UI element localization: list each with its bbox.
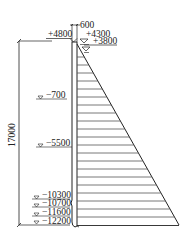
elevation-triangle-icon xyxy=(34,196,39,199)
elevation-marker-1: −700 xyxy=(36,90,67,100)
elevation-label: −5500 xyxy=(46,138,71,148)
retaining-wall xyxy=(71,42,79,227)
elevation-triangle-icon xyxy=(38,96,43,99)
elevation-triangle-icon xyxy=(34,204,39,207)
top-elevation-label: +4800 xyxy=(48,29,73,39)
elevation-triangle-icon xyxy=(34,213,39,216)
elevation-triangle-icon xyxy=(34,221,39,224)
water-level-label-2: +3800 xyxy=(93,36,118,46)
pressure-triangle xyxy=(77,44,179,226)
water-level-triangle-icon xyxy=(80,39,88,43)
overall-height-label: 17000 xyxy=(7,123,17,147)
elevation-marker-2: −5500 xyxy=(36,138,72,148)
elevation-label: −12200 xyxy=(42,216,71,226)
elevation-triangle-icon xyxy=(38,144,43,147)
water-level-triangle-icon xyxy=(82,47,90,51)
elevation-label: −700 xyxy=(46,90,66,100)
pressure-diagram: 17000 600 +4800 +4300 +3800 xyxy=(0,0,190,247)
hatch-lines xyxy=(77,57,174,217)
elevation-marker-6: −12200 xyxy=(34,216,71,226)
